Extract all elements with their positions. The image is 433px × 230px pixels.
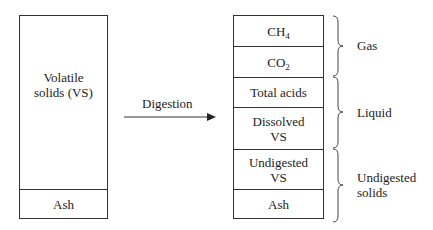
- methane-label: CH4: [267, 24, 290, 39]
- grouping-braces: [333, 16, 343, 222]
- carbon-dioxide-label: CO2: [267, 55, 290, 70]
- undigested-solids-group-label: Undigested solids: [357, 170, 416, 200]
- methane-cell: CH4: [234, 16, 323, 46]
- ash-cell-right: Ash: [234, 189, 323, 219]
- liquid-group-label: Liquid: [357, 105, 392, 120]
- total-acids-label: Total acids: [250, 85, 307, 100]
- undigested-vs-label-line1: Undigested: [249, 155, 308, 170]
- undigested-solids-brace-icon: [333, 149, 343, 222]
- dissolved-vs-cell: Dissolved VS: [234, 107, 323, 149]
- digestion-products-box: CH4 CO2 Total acids Dissolved VS Undiges…: [233, 15, 324, 219]
- gas-brace-icon: [333, 16, 343, 76]
- dissolved-vs-label-line1: Dissolved: [253, 114, 305, 129]
- undigested-vs-label-line2: VS: [249, 170, 308, 185]
- liquid-brace-icon: [333, 77, 343, 148]
- undigested-solids-label-line1: Undigested: [357, 170, 416, 185]
- total-acids-cell: Total acids: [234, 77, 323, 107]
- undigested-solids-label-line2: solids: [357, 185, 416, 200]
- carbon-dioxide-cell: CO2: [234, 46, 323, 77]
- ash-label-right: Ash: [268, 197, 289, 212]
- dissolved-vs-label-line2: VS: [253, 129, 305, 144]
- digestion-arrow-icon: [124, 113, 216, 121]
- undigested-vs-cell: Undigested VS: [234, 149, 323, 189]
- gas-group-label: Gas: [357, 38, 377, 53]
